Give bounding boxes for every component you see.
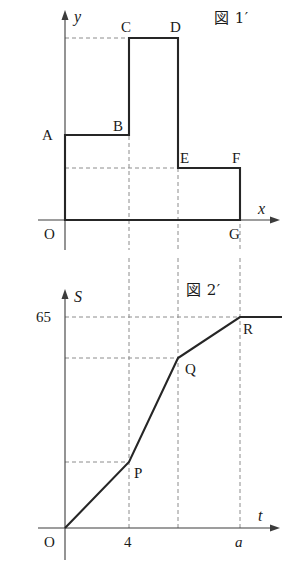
figure1-vertex-label-A: A: [42, 127, 53, 143]
figure1-vertex-label-E: E: [180, 150, 189, 166]
figure1-x-axis-label: x: [257, 200, 265, 217]
figure2-point-label-Q: Q: [185, 361, 196, 377]
figure2-xtick-a: a: [235, 534, 243, 550]
figure-2-group: S t O 65 4 a P Q R: [36, 258, 282, 560]
figure2-xtick-4: 4: [124, 534, 132, 550]
figure2-origin-label: O: [44, 534, 55, 550]
figure2-t-axis-label: t: [258, 507, 263, 524]
figure1-caption: 図 1′: [214, 6, 249, 27]
figure1-vertex-label-B: B: [113, 118, 123, 134]
figure1-origin-label: O: [44, 226, 55, 242]
figure2-point-label-P: P: [134, 465, 142, 481]
figure1-x-axis-arrow: [270, 217, 280, 224]
figure1-polygon: [65, 38, 240, 220]
figure2-ytick-65: 65: [36, 309, 51, 325]
figure2-s-axis-label: S: [74, 288, 82, 305]
figure2-point-label-R: R: [243, 321, 253, 337]
figure-root: y x O A B C D E F G: [0, 0, 292, 577]
figures-svg: y x O A B C D E F G: [0, 0, 292, 577]
figure1-vertex-label-D: D: [170, 19, 181, 35]
figure1-y-axis-arrow: [62, 10, 69, 20]
figure1-y-axis-label: y: [72, 8, 82, 26]
figure2-s-axis-arrow: [62, 289, 69, 299]
figure1-vertex-label-F: F: [232, 150, 240, 166]
figure2-caption: 図 2′: [186, 278, 221, 299]
figure1-vertex-label-C: C: [121, 19, 131, 35]
figure2-graph-polyline: [65, 317, 282, 528]
figure-1-group: y x O A B C D E F G: [38, 8, 280, 250]
figure2-t-axis-arrow: [270, 525, 280, 532]
figure1-vertex-label-G: G: [229, 226, 240, 242]
